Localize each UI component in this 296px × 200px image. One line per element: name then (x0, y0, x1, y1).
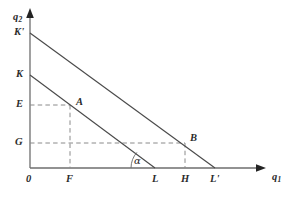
y-tick-label-k-prime: K' (14, 27, 24, 38)
axes-group (26, 8, 266, 172)
point-b-label: B (190, 133, 197, 144)
point-b-guides (30, 143, 185, 168)
y-tick-label-k: K (16, 69, 23, 80)
x-tick-label-l-prime: L' (210, 174, 220, 185)
x-tick-label-origin: 0 (26, 174, 31, 185)
point-a-label: A (76, 97, 83, 108)
x-tick-label-f: F (66, 174, 73, 185)
y-axis-label: q2 (13, 12, 22, 23)
alpha-angle-label: α (134, 156, 141, 166)
diagram-canvas: q2 q1 K' K E G 0 F L H L' A B α (0, 0, 296, 200)
x-tick-label-h: H (181, 174, 189, 185)
x-axis-arrowhead (256, 164, 266, 171)
x-tick-label-l: L (152, 174, 159, 185)
x-axis-label: q1 (272, 172, 281, 183)
y-tick-label-g: G (15, 137, 23, 148)
y-axis-arrowhead (26, 8, 34, 18)
point-a-guides (30, 105, 70, 168)
y-tick-label-e: E (16, 99, 23, 110)
budget-line-figure (0, 0, 296, 200)
outer-budget-line (30, 33, 215, 168)
